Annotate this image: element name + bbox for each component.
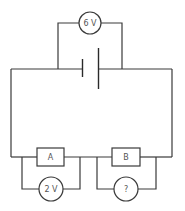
resistor-b-branch: B ? — [97, 148, 156, 201]
circuit-diagram: 6 V A 2 V B ? — [0, 0, 185, 211]
voltmeter-a-label: 2 V — [44, 185, 58, 194]
main-loop-wires — [11, 69, 172, 157]
voltmeter-battery: 6 V — [58, 12, 122, 69]
voltmeter-battery-label: 6 V — [83, 19, 97, 28]
battery — [83, 48, 99, 89]
resistor-b-label: B — [123, 153, 129, 162]
resistor-a-label: A — [48, 153, 54, 162]
voltmeter-b-label: ? — [124, 185, 128, 194]
resistor-a-branch: A 2 V — [22, 148, 80, 201]
